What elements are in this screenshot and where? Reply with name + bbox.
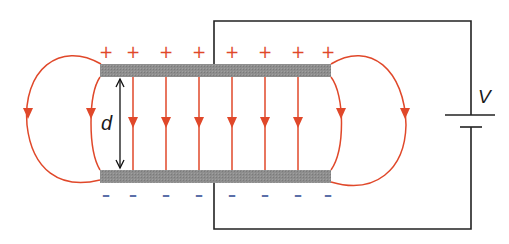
fringing-field-left [27,56,101,183]
fringing-arrows-right [336,108,410,119]
plus-charge-icon: + [159,44,173,61]
plus-charge-icon: + [291,44,305,61]
minus-charge-icon: – [324,187,332,203]
plus-charge-icon: + [99,44,113,61]
plus-charge-icon: + [126,44,140,61]
separation-label: d [101,112,112,135]
capacitor-diagram [0,0,509,244]
minus-charge-icon: – [294,187,302,203]
minus-charge-icon: – [102,187,110,203]
minus-charge-icon: – [195,187,203,203]
fringing-arrows-left [23,108,96,119]
uniform-field-lines [133,77,298,170]
circuit-wire [214,21,471,229]
minus-charge-icon: – [228,187,236,203]
minus-charge-icon: – [162,187,170,203]
plus-charge-icon: + [225,44,239,61]
minus-charge-icon: – [129,187,137,203]
voltage-label: V [478,86,491,108]
minus-charge-icon: – [261,187,269,203]
field-arrowheads [128,117,303,128]
plus-charge-icon: + [192,44,206,61]
top-plate [100,64,331,77]
fringing-field-right [331,56,406,186]
battery-icon [445,115,495,127]
separation-arrow [116,79,124,168]
plus-charge-icon: + [258,44,272,61]
plus-charge-icon: + [321,44,335,61]
bottom-plate [100,170,331,183]
